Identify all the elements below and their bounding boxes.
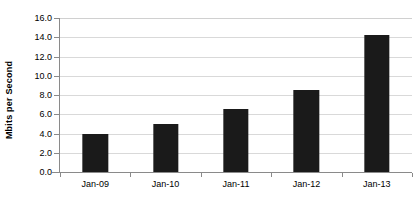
bar (223, 109, 248, 172)
bars-group (60, 18, 412, 172)
bar-slot (60, 18, 130, 172)
y-axis-tick-mark (54, 153, 59, 154)
x-axis-tick-label: Jan-13 (342, 179, 412, 197)
bar-slot (342, 18, 412, 172)
x-axis-tick-mark (201, 173, 202, 177)
bar-slot (130, 18, 200, 172)
bar (364, 35, 389, 172)
y-axis-tick-mark (54, 18, 59, 19)
x-axis-tick-label: Jan-10 (130, 179, 200, 197)
y-axis-tick-label: 6.0 (2, 109, 52, 119)
y-axis-tick-labels: 0.02.04.06.08.010.012.014.016.0 (0, 0, 52, 200)
bar-chart: Mbits per Second 0.02.04.06.08.010.012.0… (0, 0, 419, 200)
y-axis-tick-label: 12.0 (2, 52, 52, 62)
y-axis-tick-mark (54, 172, 59, 173)
bar-slot (271, 18, 341, 172)
y-axis-tick-mark (54, 95, 59, 96)
y-axis-tick-label: 16.0 (2, 13, 52, 23)
x-axis-tick-label: Jan-09 (60, 179, 130, 197)
x-axis-tick-mark (60, 173, 61, 177)
x-axis-tick-labels: Jan-09Jan-10Jan-11Jan-12Jan-13 (60, 179, 412, 197)
x-axis-tick-mark (412, 173, 413, 177)
y-axis-tick-mark (54, 37, 59, 38)
x-axis-tick-label: Jan-12 (271, 179, 341, 197)
y-axis-tick-mark (54, 134, 59, 135)
y-axis-tick-mark (54, 57, 59, 58)
bar-slot (201, 18, 271, 172)
x-axis-line (52, 172, 412, 173)
bar (83, 134, 108, 173)
y-axis-tick-mark (54, 114, 59, 115)
y-axis-tick-label: 10.0 (2, 71, 52, 81)
x-axis-tick-mark (271, 173, 272, 177)
y-axis-tick-label: 0.0 (2, 167, 52, 177)
y-axis-tick-label: 4.0 (2, 129, 52, 139)
y-axis-tick-label: 8.0 (2, 90, 52, 100)
x-axis-tick-mark (130, 173, 131, 177)
bar (294, 90, 319, 172)
y-axis-tick-mark (54, 76, 59, 77)
plot-area (60, 18, 412, 172)
y-axis-tick-label: 14.0 (2, 32, 52, 42)
x-axis-tick-mark (342, 173, 343, 177)
y-axis-tick-label: 2.0 (2, 148, 52, 158)
x-axis-tick-label: Jan-11 (201, 179, 271, 197)
bar (153, 124, 178, 172)
